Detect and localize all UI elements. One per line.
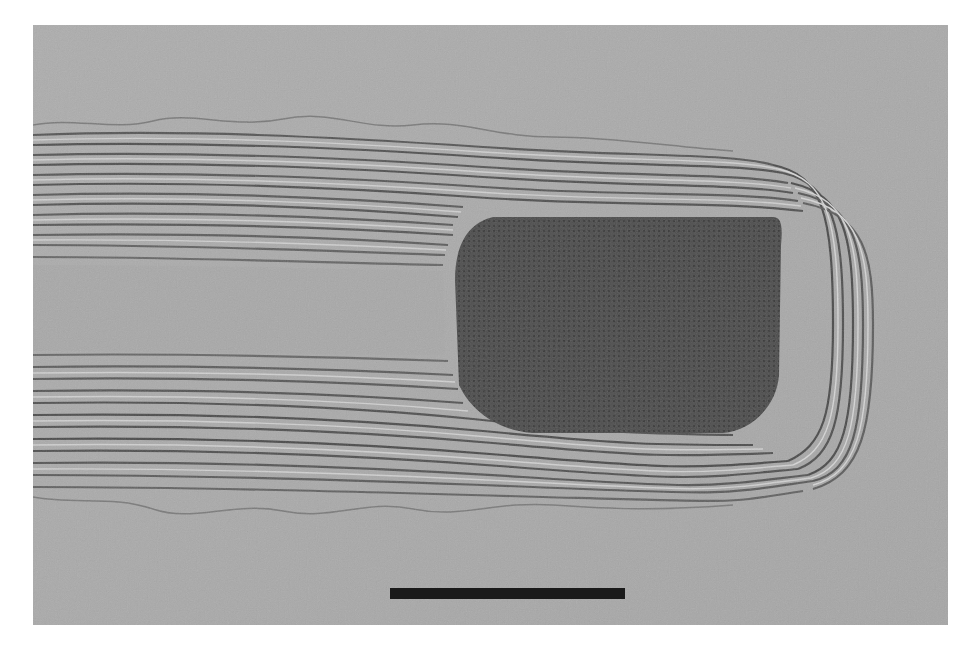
nanotube-illustration xyxy=(33,25,948,625)
tem-micrograph xyxy=(33,25,948,625)
scale-bar xyxy=(390,588,625,599)
